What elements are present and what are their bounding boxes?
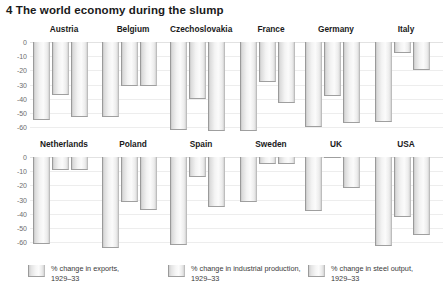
bar: [33, 157, 50, 244]
bar-group: [375, 25, 437, 137]
bar-group: [375, 140, 437, 255]
bar: [140, 157, 157, 210]
bar: [394, 157, 411, 217]
bar: [305, 157, 322, 211]
legend-label-line1: % change in industrial production,: [191, 264, 301, 273]
country-panel: Sweden: [240, 140, 302, 255]
legend-swatch-icon: [28, 265, 45, 277]
y-axis-top: 0-10-20-30-40-50-60: [0, 25, 30, 137]
bar: [324, 42, 341, 96]
bar-group: [240, 140, 302, 255]
panel-row-top: 0-10-20-30-40-50-60 AustriaBelgiumCzecho…: [0, 25, 443, 137]
bar: [394, 42, 411, 53]
bar: [71, 157, 88, 170]
bar: [121, 157, 138, 202]
country-panel: Germany: [305, 25, 367, 137]
bar: [259, 42, 276, 82]
country-panel: Austria: [33, 25, 95, 137]
bar: [324, 157, 341, 158]
bar-group: [240, 25, 302, 137]
bar: [33, 42, 50, 120]
bar: [170, 42, 187, 130]
country-panel: France: [240, 25, 302, 137]
country-panel: Belgium: [102, 25, 164, 137]
bar: [413, 42, 430, 70]
bar-group: [170, 140, 232, 255]
country-panel: UK: [305, 140, 367, 255]
bar: [343, 157, 360, 188]
country-panel: USA: [375, 140, 437, 255]
country-panel: Czechoslovakia: [170, 25, 232, 137]
y-axis-tick-label: -20: [17, 67, 27, 74]
bar-group: [102, 140, 164, 255]
country-panel: Poland: [102, 140, 164, 255]
legend-label: % change in industrial production,1929–3…: [191, 264, 301, 283]
bar: [208, 157, 225, 207]
y-axis-tick-label: -40: [17, 95, 27, 102]
figure: 4 The world economy during the slump 0-1…: [0, 0, 443, 304]
y-axis-tick-label: -30: [17, 81, 27, 88]
legend-label-line2: 1929–33: [191, 274, 301, 284]
country-panel: Netherlands: [33, 140, 95, 255]
bar-group: [102, 25, 164, 137]
bar: [240, 157, 257, 202]
country-panel: Italy: [375, 25, 437, 137]
bar-group: [33, 140, 95, 255]
bar: [305, 42, 322, 127]
legend-swatch-icon: [308, 265, 325, 277]
y-axis-tick-label: -10: [17, 53, 27, 60]
bar: [259, 157, 276, 164]
bar: [52, 42, 69, 95]
bar: [413, 157, 430, 235]
bar-group: [33, 25, 95, 137]
y-axis-tick-label: -60: [17, 124, 27, 131]
y-axis-tick-label: -20: [17, 182, 27, 189]
bar: [52, 157, 69, 170]
y-axis-tick-label: -60: [17, 239, 27, 246]
bar: [140, 42, 157, 86]
figure-title: 4 The world economy during the slump: [6, 4, 224, 16]
bar: [121, 42, 138, 86]
bar: [240, 42, 257, 131]
legend-label-line2: 1929–33: [331, 274, 413, 284]
bar-group: [305, 140, 367, 255]
legend-label-line1: % change in exports,: [51, 264, 119, 273]
bar: [71, 42, 88, 117]
bar-group: [305, 25, 367, 137]
legend-label-line1: % change in steel output,: [331, 264, 413, 273]
y-axis-bottom: 0-10-20-30-40-50-60: [0, 140, 30, 255]
bar: [375, 42, 392, 122]
y-axis-tick-label: -40: [17, 210, 27, 217]
bar-group: [170, 25, 232, 137]
bar: [343, 42, 360, 123]
y-axis-tick-label: -50: [17, 225, 27, 232]
bar: [208, 42, 225, 131]
bar: [278, 42, 295, 103]
y-axis-tick-label: 0: [23, 154, 27, 161]
bar: [102, 42, 119, 117]
y-axis-tick-label: -10: [17, 168, 27, 175]
chart-legend: % change in exports,1929–33% change in i…: [0, 262, 443, 304]
bar: [189, 157, 206, 177]
bar: [102, 157, 119, 248]
legend-swatch-icon: [168, 265, 185, 277]
panel-row-bottom: 0-10-20-30-40-50-60 NetherlandsPolandSpa…: [0, 140, 443, 255]
y-axis-tick-label: -30: [17, 196, 27, 203]
bar: [170, 157, 187, 245]
bar: [278, 157, 295, 164]
legend-label: % change in exports,1929–33: [51, 264, 119, 283]
bar: [189, 42, 206, 99]
bar: [375, 157, 392, 246]
y-axis-tick-label: -50: [17, 110, 27, 117]
legend-label: % change in steel output,1929–33: [331, 264, 413, 283]
legend-label-line2: 1929–33: [51, 274, 119, 284]
country-panel: Spain: [170, 140, 232, 255]
y-axis-tick-label: 0: [23, 39, 27, 46]
